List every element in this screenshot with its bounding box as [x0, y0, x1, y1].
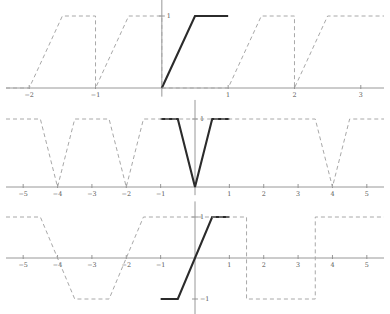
y-tick-label: −1: [200, 295, 209, 303]
figure-root: −2−11231 −5−4−3−2−1123451 −5−4−3−2−11234…: [0, 0, 390, 314]
x-tick-label: −3: [87, 190, 96, 198]
y-tick-label: 1: [167, 12, 171, 20]
plot-svg-bottom: −5−4−3−2−1123451−1: [0, 205, 390, 314]
plot-panel-middle: −5−4−3−2−1123451: [0, 105, 390, 205]
curve-periodic-extension: [6, 16, 384, 88]
x-tick-label: −2: [122, 261, 131, 269]
x-tick-label: −1: [156, 190, 165, 198]
axes-top: −2−11231: [6, 0, 384, 99]
plot-svg-top: −2−11231: [0, 0, 390, 105]
plot-svg-middle: −5−4−3−2−1123451: [0, 105, 390, 205]
x-tick-label: 1: [226, 91, 230, 99]
x-tick-label: 2: [262, 261, 266, 269]
x-tick-label: 2: [292, 91, 296, 99]
x-tick-label: −1: [91, 91, 100, 99]
x-tick-label: −2: [24, 91, 33, 99]
x-tick-label: 2: [262, 190, 266, 198]
x-tick-label: −5: [18, 190, 27, 198]
plot-panel-bottom: −5−4−3−2−1123451−1: [0, 205, 390, 314]
x-tick-label: 5: [365, 261, 369, 269]
x-tick-label: 5: [365, 190, 369, 198]
x-tick-label: 3: [359, 91, 363, 99]
x-tick-label: −2: [122, 190, 131, 198]
x-tick-label: −3: [87, 261, 96, 269]
x-tick-label: 3: [296, 190, 300, 198]
x-tick-label: 4: [330, 190, 334, 198]
x-tick-label: 1: [227, 190, 231, 198]
plot-panel-top: −2−11231: [0, 0, 390, 105]
x-tick-label: −4: [53, 190, 62, 198]
x-tick-label: −5: [18, 261, 27, 269]
x-tick-label: 1: [227, 261, 231, 269]
x-tick-label: 3: [296, 261, 300, 269]
x-tick-label: 4: [330, 261, 334, 269]
curves-top: [6, 16, 384, 88]
curve-principal-segment: [162, 16, 228, 88]
x-tick-label: −1: [156, 261, 165, 269]
